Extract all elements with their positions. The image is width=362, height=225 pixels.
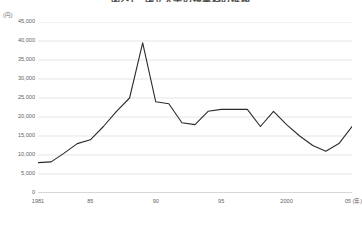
data-series-group — [38, 43, 352, 163]
plot-area — [38, 22, 352, 193]
x-tick-label: 95 — [218, 199, 224, 205]
series-line-0 — [38, 43, 352, 163]
x-tick-label: 05 (年) — [345, 199, 362, 205]
x-tick-label: 2000 — [280, 199, 292, 205]
gridlines — [38, 22, 352, 193]
line-chart-svg — [38, 22, 352, 193]
axis-lines — [38, 22, 352, 193]
x-tick-label: 90 — [153, 199, 159, 205]
x-tick-label: 85 — [87, 199, 93, 205]
x-tick-label: 1981 — [32, 199, 44, 205]
